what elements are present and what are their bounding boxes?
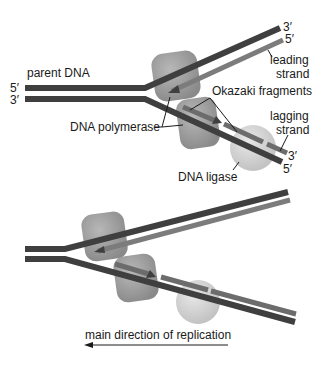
label-3prime-bottom-right: 3′ <box>288 149 298 163</box>
label-dna-polymerase: DNA polymerase <box>70 120 160 134</box>
parent-strand-bottom-2 <box>25 259 295 322</box>
top-replication-fork: 3′ 5′ leading strand parent DNA 5′ 3′ Ok… <box>10 20 312 184</box>
label-5prime-top-right: 5′ <box>285 32 295 46</box>
label-direction: main direction of replication <box>85 328 231 342</box>
leading-strand-2 <box>98 200 290 251</box>
label-leading-2: strand <box>276 67 309 81</box>
direction-indicator: main direction of replication <box>84 328 231 348</box>
label-dna-ligase: DNA ligase <box>178 170 238 184</box>
label-5prime-bottom-right: 5′ <box>283 162 293 176</box>
bottom-replication-fork <box>25 192 296 324</box>
direction-arrow-left-icon <box>84 342 93 348</box>
replication-diagram: 3′ 5′ leading strand parent DNA 5′ 3′ Ok… <box>0 0 322 365</box>
label-lagging-1: lagging <box>270 109 309 123</box>
label-okazaki: Okazaki fragments <box>212 84 312 98</box>
label-3prime-left: 3′ <box>10 93 20 107</box>
lagging-leader <box>280 135 288 151</box>
label-parent-dna: parent DNA <box>27 66 90 80</box>
label-lagging-2: strand <box>276 123 309 137</box>
label-leading-1: leading <box>270 53 309 67</box>
parent-strand-top-2 <box>25 192 288 249</box>
